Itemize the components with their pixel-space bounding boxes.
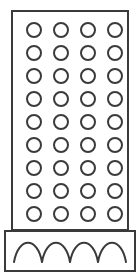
grater-icon bbox=[0, 0, 140, 277]
